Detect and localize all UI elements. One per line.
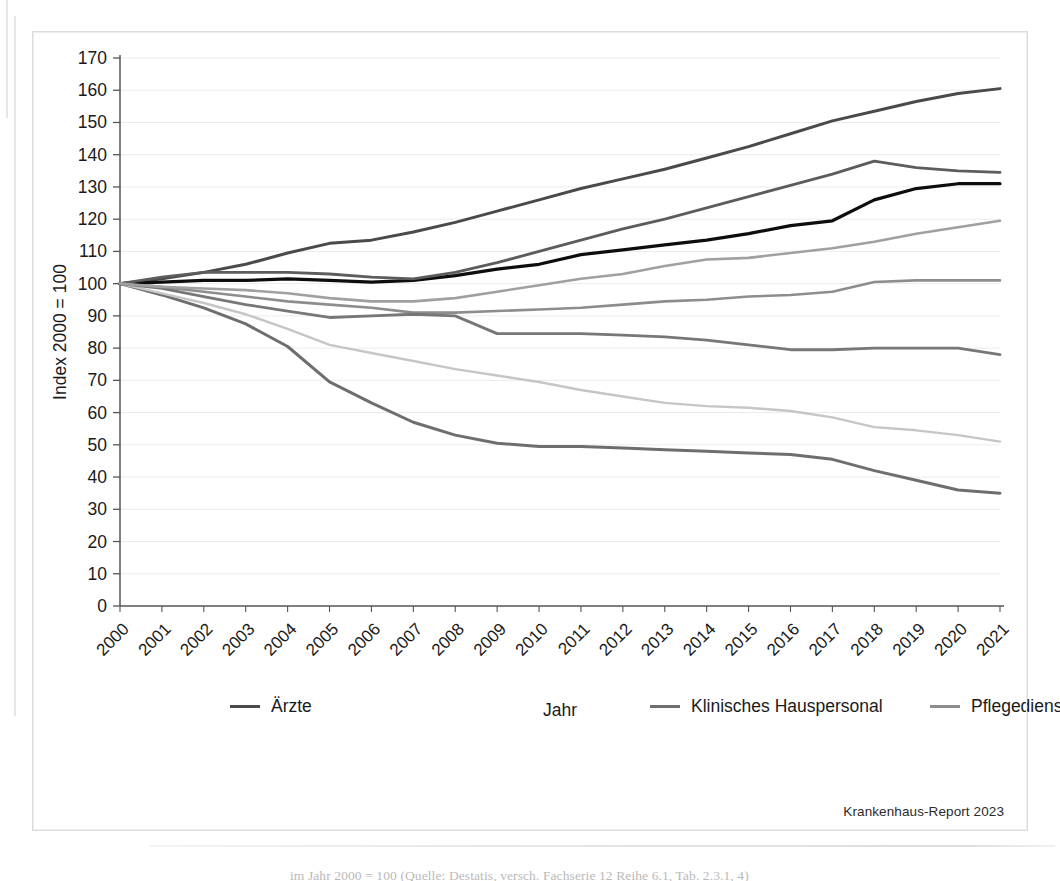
- y-tick-label: 40: [88, 467, 108, 487]
- x-tick-label: 2017: [805, 619, 845, 659]
- legend-label: Ärzte: [271, 698, 312, 716]
- series-lines-group: [120, 89, 1000, 494]
- x-tick-label: 2021: [973, 619, 1013, 659]
- y-tick-label: 60: [88, 403, 108, 423]
- x-tick-group: 2000200120022003200420052006200720082009…: [93, 606, 1013, 660]
- legend-entry[interactable]: Pflegedienst: [930, 693, 1060, 720]
- y-axis-title: Index 2000 = 100: [50, 264, 70, 400]
- x-tick-label: 2005: [302, 619, 342, 659]
- legend-line-swatch-icon: [930, 705, 960, 708]
- x-tick-label: 2011: [554, 619, 593, 658]
- y-tick-label: 0: [97, 596, 107, 616]
- chart-legend: ÄrzteKlinisches HauspersonalPflegedienst…: [230, 693, 930, 720]
- legend-line-swatch-icon: [230, 705, 260, 708]
- x-tick-label: 2012: [596, 619, 636, 659]
- y-tick-label: 100: [78, 274, 107, 294]
- x-tick-label: 2015: [721, 619, 761, 659]
- series-line-5: [120, 161, 1000, 284]
- x-tick-label: 2004: [260, 619, 300, 659]
- x-tick-label: 2009: [470, 619, 510, 659]
- x-tick-label: 2018: [847, 619, 887, 659]
- y-tick-label: 50: [88, 435, 108, 455]
- legend-label: Klinisches Hauspersonal: [691, 698, 883, 716]
- x-tick-label: 2000: [93, 619, 133, 659]
- legend-entry[interactable]: Ärzte: [230, 693, 650, 720]
- y-tick-label: 20: [88, 532, 108, 552]
- page-edge-rule-left-lower: [14, 16, 16, 716]
- y-tick-label: 160: [78, 80, 107, 100]
- scanned-page: 0102030405060708090100110120130140150160…: [0, 0, 1060, 881]
- y-tick-label: 10: [88, 564, 108, 584]
- x-tick-label: 2014: [679, 619, 719, 659]
- source-note: Krankenhaus-Report 2023: [843, 804, 1004, 819]
- y-tick-label: 130: [78, 177, 107, 197]
- y-tick-group: 0102030405060708090100110120130140150160…: [78, 48, 120, 616]
- x-tick-label: 2001: [135, 619, 175, 659]
- y-tick-label: 120: [78, 209, 107, 229]
- series-line-4: [120, 184, 1000, 284]
- y-tick-label: 80: [88, 338, 108, 358]
- y-tick-label: 110: [79, 241, 107, 261]
- y-tick-label: 140: [78, 145, 107, 165]
- x-tick-label: 2016: [763, 619, 803, 659]
- cut-off-caption-text: im Jahr 2000 = 100 (Quelle: Destatis, ve…: [290, 868, 1030, 881]
- legend-line-swatch-icon: [650, 705, 680, 708]
- series-line-2: [120, 280, 1000, 312]
- y-tick-label: 170: [78, 48, 107, 68]
- x-tick-label: 2003: [218, 619, 258, 659]
- page-edge-rule-left-upper: [6, 0, 8, 118]
- y-tick-label: 150: [78, 112, 107, 132]
- y-tick-label: 30: [88, 499, 108, 519]
- x-tick-label: 2007: [386, 619, 426, 659]
- x-tick-label: 2006: [344, 619, 384, 659]
- y-tick-label: 70: [88, 370, 108, 390]
- axes-group: [120, 55, 1004, 606]
- series-line-1: [120, 284, 1000, 494]
- page-scan-rule: [150, 845, 1055, 847]
- x-tick-label: 2020: [931, 619, 971, 659]
- figure-frame: 0102030405060708090100110120130140150160…: [32, 31, 1028, 831]
- x-tick-label: 2002: [176, 619, 216, 659]
- series-line-0: [120, 89, 1000, 284]
- x-tick-label: 2010: [512, 619, 552, 659]
- legend-entry[interactable]: Klinisches Hauspersonal: [650, 693, 930, 720]
- x-tick-label: 2019: [889, 619, 929, 659]
- x-tick-label: 2008: [428, 619, 468, 659]
- legend-label: Pflegedienst: [971, 698, 1060, 716]
- x-tick-label: 2013: [637, 619, 677, 659]
- y-tick-label: 90: [88, 306, 108, 326]
- series-line-6: [120, 284, 1000, 355]
